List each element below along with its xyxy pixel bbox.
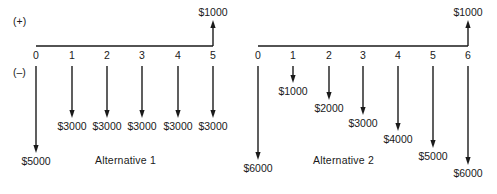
period-5-label: 5 bbox=[430, 50, 436, 61]
period-0-label: 0 bbox=[255, 50, 261, 61]
disbursement-amount-period-5: $5000 bbox=[418, 151, 447, 162]
arrow-head-down-icon bbox=[326, 92, 331, 100]
disbursement-amount-period-1: $1000 bbox=[278, 86, 307, 97]
period-6-label: 6 bbox=[465, 50, 471, 61]
period-1-label: 1 bbox=[290, 50, 296, 61]
disbursement-amount-period-5: $3000 bbox=[198, 121, 227, 132]
disbursement-amount-period-6: $6000 bbox=[453, 168, 482, 179]
disbursement-amount-period-4: $4000 bbox=[383, 134, 412, 145]
period-0-label: 0 bbox=[33, 50, 39, 61]
disbursement-amount-period-0: $6000 bbox=[243, 163, 272, 174]
disbursement-amount-period-4: $3000 bbox=[163, 121, 192, 132]
disbursement-amount-period-2: $3000 bbox=[92, 121, 121, 132]
period-4-label: 4 bbox=[395, 50, 401, 61]
disbursement-amount-period-2: $2000 bbox=[314, 103, 343, 114]
arrow-head-down-icon bbox=[104, 110, 109, 118]
disbursement-amount-period-1: $3000 bbox=[57, 121, 86, 132]
period-2-label: 2 bbox=[104, 50, 110, 61]
receipt-amount-period-6: $1000 bbox=[453, 7, 482, 18]
period-4-label: 4 bbox=[175, 50, 181, 61]
disbursement-amount-period-0: $5000 bbox=[21, 156, 50, 167]
arrow-head-down-icon bbox=[395, 123, 400, 131]
arrow-head-down-icon bbox=[139, 110, 144, 118]
period-1-label: 1 bbox=[69, 50, 75, 61]
alternative-1-caption: Alternative 1 bbox=[95, 155, 156, 166]
arrow-head-down-icon bbox=[69, 110, 74, 118]
arrow-head-down-icon bbox=[255, 152, 260, 160]
arrow-head-down-icon bbox=[210, 110, 215, 118]
arrow-head-down-icon bbox=[33, 145, 38, 153]
arrow-head-up-icon bbox=[210, 20, 215, 28]
positive-sign-label: (+) bbox=[13, 16, 26, 27]
period-3-label: 3 bbox=[360, 50, 366, 61]
arrow-head-down-icon bbox=[175, 110, 180, 118]
disbursement-amount-period-3: $3000 bbox=[348, 118, 377, 129]
disbursement-amount-period-3: $3000 bbox=[127, 121, 156, 132]
period-2-label: 2 bbox=[326, 50, 332, 61]
arrow-head-down-icon bbox=[290, 75, 295, 83]
period-3-label: 3 bbox=[139, 50, 145, 61]
arrow-head-down-icon bbox=[360, 107, 365, 115]
alternative-2-caption: Alternative 2 bbox=[313, 155, 374, 166]
arrow-head-up-icon bbox=[465, 20, 470, 28]
receipt-amount-period-5: $1000 bbox=[198, 7, 227, 18]
negative-sign-label: (–) bbox=[13, 67, 26, 78]
arrow-head-down-icon bbox=[430, 140, 435, 148]
period-5-label: 5 bbox=[210, 50, 216, 61]
arrow-head-down-icon bbox=[465, 157, 470, 165]
